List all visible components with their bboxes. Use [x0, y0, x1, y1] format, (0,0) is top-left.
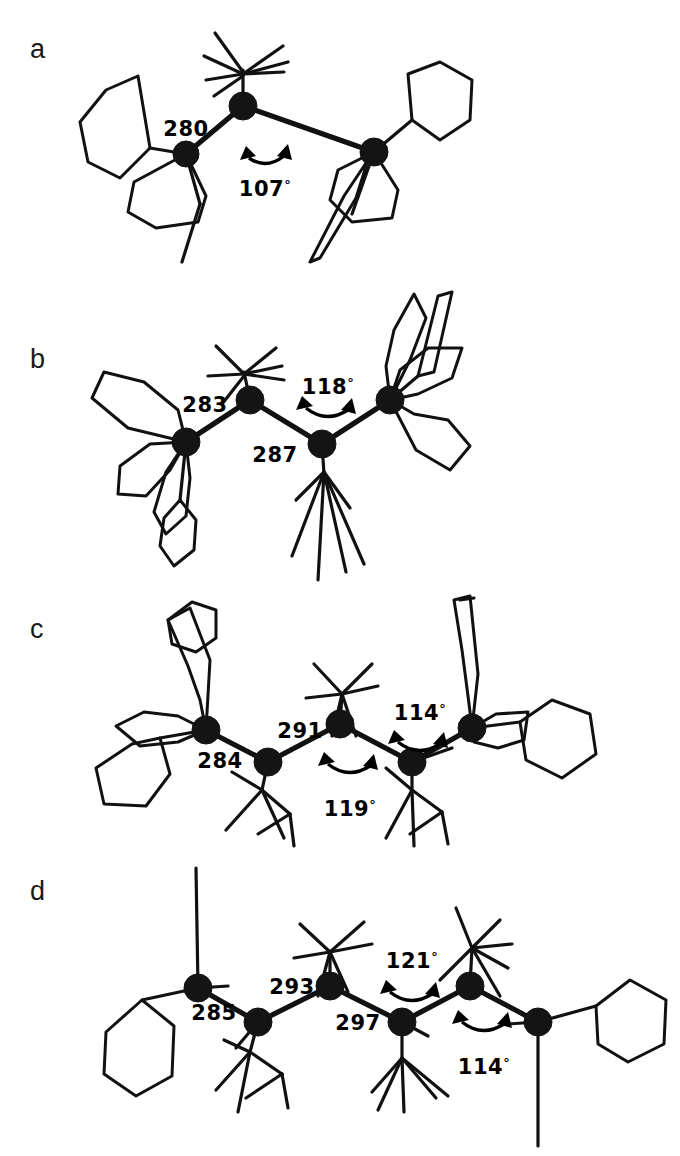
- panel-a-letter: a: [30, 34, 46, 64]
- chain-atom: [316, 972, 344, 1000]
- molecular-structure-figure: a 280: [0, 0, 680, 1156]
- chain-atom: [388, 1008, 416, 1036]
- chain-atom: [524, 1008, 552, 1036]
- bond-length-label: 280: [163, 117, 208, 141]
- chain-atom: [229, 92, 257, 120]
- bond-length-label: 283: [182, 393, 227, 417]
- panel-d-letter: d: [30, 876, 45, 906]
- chain-atom: [326, 710, 354, 738]
- bond-angle-label: 107°: [239, 177, 291, 202]
- bond-angle-label: 119°: [324, 797, 376, 822]
- chain-atom: [254, 748, 282, 776]
- bond-angle-label: 121°: [386, 949, 438, 974]
- chain-atom: [184, 974, 212, 1002]
- bond-ring-edge: [460, 598, 474, 600]
- chain-atom: [458, 714, 486, 742]
- chain-atom: [308, 430, 336, 458]
- chain-atom: [244, 1008, 272, 1036]
- chain-atom: [456, 972, 484, 1000]
- chain-atom: [360, 138, 388, 166]
- chain-atom: [192, 716, 220, 744]
- chain-atom: [172, 428, 200, 456]
- chain-atom: [173, 141, 199, 167]
- bond-length-label: 297: [335, 1011, 380, 1035]
- bond-angle-label: 114°: [394, 701, 446, 726]
- panel-c-letter: c: [30, 614, 44, 644]
- bond-length-label: 287: [252, 443, 297, 467]
- bond-length-label: 285: [191, 1001, 236, 1025]
- chain-atom: [376, 386, 404, 414]
- bond-angle-label: 118°: [302, 375, 354, 400]
- panel-b-letter: b: [30, 344, 45, 374]
- bond-length-label: 293: [269, 975, 314, 999]
- bond-angle-label: 114°: [458, 1055, 510, 1080]
- axial-bond: [196, 868, 198, 988]
- chain-atom: [236, 386, 264, 414]
- bond-length-label: 291: [277, 719, 322, 743]
- bond-length-label: 284: [197, 749, 242, 773]
